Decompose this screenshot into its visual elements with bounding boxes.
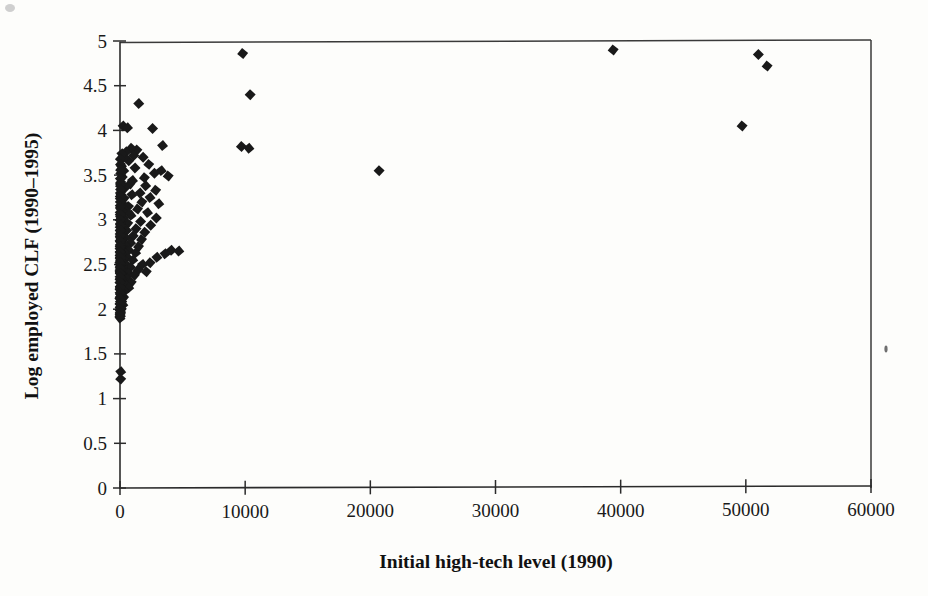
data-point (607, 44, 619, 56)
y-tick-label: 5 (98, 31, 108, 52)
data-point (153, 198, 165, 210)
y-tick-label: 2 (98, 299, 108, 320)
data-point (753, 49, 764, 60)
y-tick-label: 1.5 (83, 343, 107, 364)
x-tick-label: 10000 (221, 501, 269, 522)
scatter-plot: 00.511.522.533.544.55 010000200003000040… (0, 0, 928, 596)
scan-smudge-icon (5, 4, 15, 12)
y-tick-label: 2.5 (83, 254, 107, 275)
y-tick-label: 0 (98, 478, 108, 499)
figure-canvas: 00.511.522.533.544.55 010000200003000040… (0, 0, 928, 596)
x-tick-label: 30000 (472, 500, 520, 521)
data-point (373, 165, 384, 176)
x-tick-label: 60000 (847, 499, 895, 520)
data-point (147, 123, 158, 134)
y-tick-label: 1 (98, 388, 108, 409)
y-tick-label: 4.5 (83, 75, 107, 96)
data-point (141, 207, 153, 219)
data-point (736, 120, 748, 132)
data-point (133, 98, 144, 109)
y-tick-label: 3 (98, 209, 108, 230)
x-tick-label: 40000 (597, 500, 645, 521)
data-point (761, 60, 773, 72)
y-axis-title: Log employed CLF (1990–1995) (21, 133, 43, 399)
data-point (243, 142, 255, 154)
y-tick-label: 3.5 (83, 165, 107, 186)
data-point (173, 245, 185, 257)
data-point (157, 140, 169, 152)
data-point (129, 162, 140, 173)
data-point-layer (114, 44, 773, 385)
scan-speck-icon (884, 346, 887, 353)
data-point (245, 89, 256, 100)
data-point (237, 47, 249, 59)
plot-frame (120, 40, 871, 488)
y-tick-label: 0.5 (83, 433, 107, 454)
x-tick-label: 50000 (722, 499, 770, 520)
x-tick-label: 20000 (347, 500, 395, 521)
x-tick-label: 0 (115, 501, 125, 522)
x-axis-title: Initial high-tech level (1990) (379, 551, 612, 573)
data-point (115, 373, 127, 385)
y-tick-label: 4 (98, 120, 108, 141)
